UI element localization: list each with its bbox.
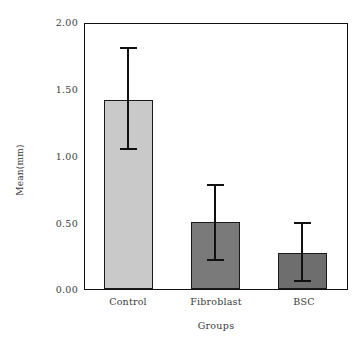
y-tick-label-2.00: 2.00 [28, 18, 78, 28]
plot-inner [85, 24, 347, 289]
y-tick-label-0.00: 0.00 [28, 285, 78, 295]
error-bar-cap-lower-control [120, 148, 137, 150]
error-bar-stem-bsc [301, 223, 303, 281]
error-bar-cap-upper-control [120, 47, 137, 49]
y-axis-title: Mean(mm) [15, 110, 29, 230]
x-tick-label-control: Control [84, 296, 172, 307]
y-tick-label-1.50: 1.50 [28, 85, 78, 95]
x-tick-label-fibroblast: Fibroblast [172, 296, 260, 307]
y-axis-tick-labels: 2.00 1.50 1.00 0.50 0.00 [28, 0, 78, 344]
error-bar-cap-upper-bsc [294, 222, 311, 224]
x-tick-label-bsc: BSC [260, 296, 348, 307]
plot-area [84, 23, 348, 290]
y-tick-label-0.50: 0.50 [28, 219, 78, 229]
error-bar-stem-fibroblast [214, 185, 216, 260]
x-axis-title: Groups [84, 320, 348, 331]
bar-chart: Mean(mm) 2.00 1.50 1.00 0.50 0.00 Contro… [0, 0, 364, 344]
error-bar-cap-lower-fibroblast [207, 259, 224, 261]
error-bar-bsc [278, 223, 327, 289]
error-bar-cap-lower-bsc [294, 280, 311, 282]
error-bar-stem-control [127, 48, 129, 150]
error-bar-control [104, 48, 153, 289]
error-bar-fibroblast [191, 185, 240, 289]
error-bar-cap-upper-fibroblast [207, 184, 224, 186]
y-tick-label-1.00: 1.00 [28, 152, 78, 162]
